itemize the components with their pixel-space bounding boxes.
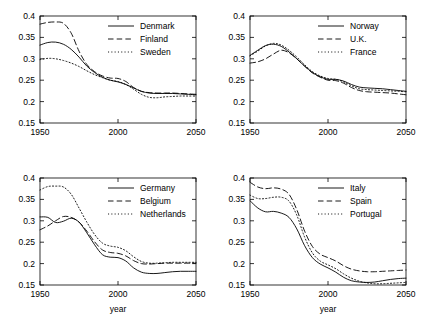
- series-line-germany: [40, 217, 196, 274]
- series-line-u-k: [250, 50, 406, 95]
- series-line-france: [250, 43, 406, 91]
- plot-frame: [40, 178, 196, 285]
- y-tick-label: 0.4: [233, 173, 245, 183]
- y-tick-label: 0.3: [23, 54, 35, 64]
- legend-label-finland: Finland: [140, 34, 168, 44]
- x-tick-label: 1950: [241, 289, 260, 299]
- y-tick-label: 0.2: [23, 97, 35, 107]
- x-tick-label: 1950: [31, 127, 50, 137]
- chart-panel-bottom-left: 0.150.20.250.30.350.4195020002050yearGer…: [40, 178, 210, 319]
- y-tick-label: 0.4: [233, 11, 245, 21]
- x-tick-label: 2050: [187, 289, 206, 299]
- legend-label-spain: Spain: [350, 196, 372, 206]
- y-tick-label: 0.35: [228, 194, 245, 204]
- series-line-denmark: [40, 42, 196, 95]
- plot-frame: [250, 16, 406, 123]
- legend-label-portugal: Portugal: [350, 209, 382, 219]
- legend-label-netherlands: Netherlands: [140, 209, 186, 219]
- legend-label-germany: Germany: [140, 183, 176, 193]
- x-axis-title: year: [320, 304, 337, 314]
- legend-label-norway: Norway: [350, 21, 380, 31]
- y-tick-label: 0.3: [23, 216, 35, 226]
- y-tick-label: 0.4: [23, 11, 35, 21]
- legend-label-denmark: Denmark: [140, 21, 175, 31]
- plot-frame: [250, 178, 406, 285]
- x-tick-label: 2000: [319, 127, 338, 137]
- y-tick-label: 0.25: [228, 237, 245, 247]
- y-tick-label: 0.25: [18, 237, 35, 247]
- x-tick-label: 2050: [397, 289, 416, 299]
- chart-panel-top-right: 0.150.20.250.30.350.4195020002050NorwayU…: [250, 16, 420, 157]
- series-line-italy: [250, 201, 406, 283]
- y-tick-label: 0.2: [23, 259, 35, 269]
- y-tick-label: 0.4: [23, 173, 35, 183]
- figure-multi-panel-line-charts: 0.150.20.250.30.350.4195020002050Denmark…: [0, 0, 423, 322]
- y-tick-label: 0.35: [18, 32, 35, 42]
- y-tick-label: 0.3: [233, 54, 245, 64]
- y-tick-label: 0.2: [233, 97, 245, 107]
- chart-panel-top-left: 0.150.20.250.30.350.4195020002050Denmark…: [40, 16, 210, 157]
- series-line-spain: [250, 182, 406, 272]
- x-tick-label: 1950: [241, 127, 260, 137]
- series-line-belgium: [40, 216, 196, 264]
- legend-label-sweden: Sweden: [140, 47, 171, 57]
- y-tick-label: 0.35: [18, 194, 35, 204]
- series-line-finland: [40, 22, 196, 94]
- chart-panel-bottom-right: 0.150.20.250.30.350.4195020002050yearIta…: [250, 178, 420, 319]
- y-tick-label: 0.25: [18, 75, 35, 85]
- x-tick-label: 2000: [319, 289, 338, 299]
- legend-label-italy: Italy: [350, 183, 366, 193]
- x-tick-label: 2000: [109, 127, 128, 137]
- y-tick-label: 0.35: [228, 32, 245, 42]
- series-line-norway: [250, 44, 406, 91]
- x-tick-label: 2050: [397, 127, 416, 137]
- y-tick-label: 0.3: [233, 216, 245, 226]
- x-axis-title: year: [110, 304, 127, 314]
- x-tick-label: 1950: [31, 289, 50, 299]
- series-line-portugal: [250, 195, 406, 284]
- legend-label-france: France: [350, 47, 377, 57]
- y-tick-label: 0.25: [228, 75, 245, 85]
- legend-label-belgium: Belgium: [140, 196, 171, 206]
- y-tick-label: 0.2: [233, 259, 245, 269]
- legend-label-u-k: U.K.: [350, 34, 367, 44]
- series-line-netherlands: [40, 186, 196, 263]
- x-tick-label: 2000: [109, 289, 128, 299]
- x-tick-label: 2050: [187, 127, 206, 137]
- plot-frame: [40, 16, 196, 123]
